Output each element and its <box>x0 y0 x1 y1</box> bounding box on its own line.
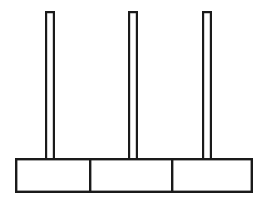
peg-right[interactable] <box>203 12 211 159</box>
three-peg-diagram <box>0 0 269 206</box>
diagram-canvas: Three empty pegs mounted on a segmented … <box>0 0 269 206</box>
base-segment-right[interactable] <box>173 160 250 190</box>
base-group <box>16 159 252 192</box>
peg-left[interactable] <box>46 12 54 159</box>
base-segment-middle[interactable] <box>91 160 168 190</box>
peg-middle[interactable] <box>129 12 137 159</box>
base-segment-left[interactable] <box>17 160 86 190</box>
